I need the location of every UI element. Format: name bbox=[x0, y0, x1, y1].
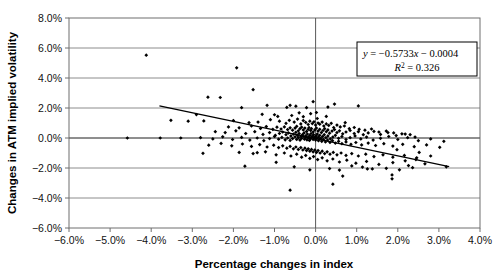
r-squared-value: = 0.326 bbox=[405, 62, 440, 73]
y-tick-label: 4.0% bbox=[38, 72, 62, 84]
r-squared-line: R2 = 0.326 bbox=[394, 61, 440, 74]
x-tick-labels: −6.0%−5.0%−4.0%−3.0%−2.0%−1.0%0.0%1.0%2.… bbox=[54, 234, 492, 246]
x-tick-label: −6.0% bbox=[54, 234, 84, 246]
y-tick-label: −6.0% bbox=[32, 222, 62, 234]
y-tick-label: −2.0% bbox=[32, 162, 62, 174]
equation-constant: − 0.0004 bbox=[418, 48, 459, 59]
y-axis-title: Changes in ATM implied volatility bbox=[6, 31, 18, 214]
x-tick-label: −1.0% bbox=[259, 234, 289, 246]
x-axis-title: Percentage changes in index bbox=[195, 258, 354, 270]
y-tick-label: 2.0% bbox=[38, 102, 62, 114]
x-tick-label: 2.0% bbox=[386, 234, 410, 246]
x-tick-label: −2.0% bbox=[218, 234, 248, 246]
x-tick-label: −5.0% bbox=[95, 234, 125, 246]
y-tick-label: 6.0% bbox=[38, 42, 62, 54]
y-tick-label: 0.0% bbox=[38, 132, 62, 144]
equation-line: y = −0.5733x − 0.0004 bbox=[362, 48, 459, 59]
scatter-chart: −6.0%−5.0%−4.0%−3.0%−2.0%−1.0%0.0%1.0%2.… bbox=[0, 0, 504, 275]
equation-annotation: y = −0.5733x − 0.0004 R2 = 0.326 bbox=[357, 42, 477, 76]
x-tick-label: 3.0% bbox=[427, 234, 451, 246]
y-tick-label: −4.0% bbox=[32, 192, 62, 204]
x-tick-label: 4.0% bbox=[468, 234, 492, 246]
chart-figure: −6.0%−5.0%−4.0%−3.0%−2.0%−1.0%0.0%1.0%2.… bbox=[0, 0, 504, 275]
x-tick-label: 0.0% bbox=[304, 234, 328, 246]
equation-coefficient: = −0.5733 bbox=[368, 48, 414, 59]
x-tick-label: 1.0% bbox=[345, 234, 369, 246]
y-tick-label: 8.0% bbox=[38, 12, 62, 24]
x-tick-label: −3.0% bbox=[177, 234, 207, 246]
x-tick-label: −4.0% bbox=[136, 234, 166, 246]
